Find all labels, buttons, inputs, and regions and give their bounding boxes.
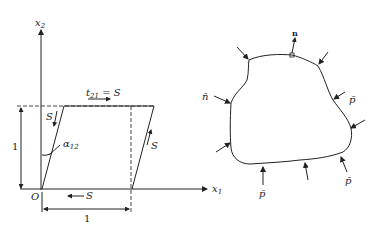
shear-diagram: x2 x1 O t21 = S S S S α12 1 <box>12 17 222 224</box>
normal-arrow <box>292 38 295 53</box>
top-traction-label: t21 = S <box>86 87 121 100</box>
load-arrow-6 <box>216 143 230 152</box>
width-label: 1 <box>84 213 90 224</box>
height-label: 1 <box>12 141 18 152</box>
load-label-right: p̄ <box>349 94 356 105</box>
angle-label: α12 <box>63 138 79 151</box>
body-diagram: n n̄ p̄ p̄ p̄ <box>202 28 365 199</box>
right-shear-label: S <box>151 140 158 151</box>
load-arrow-3 <box>214 96 230 103</box>
load-arrow-1 <box>237 47 248 59</box>
load-arrow-2 <box>319 52 328 64</box>
body-outline <box>230 55 351 164</box>
normal-left-label: n̄ <box>202 91 208 102</box>
diagram-canvas: x2 x1 O t21 = S S S S α12 1 <box>0 0 378 235</box>
left-shear-label: S <box>46 111 53 122</box>
x2-axis-label: x2 <box>35 17 46 30</box>
angle-leader <box>49 145 60 155</box>
bottom-shear-label: S <box>86 190 93 201</box>
normal-label: n <box>292 28 298 38</box>
left-shear-arrow <box>54 111 57 126</box>
load-arrow-4 <box>334 92 345 99</box>
load-label-bottom: p̄ <box>259 188 266 199</box>
load-label-bottom-right: p̄ <box>345 175 352 186</box>
x1-axis-label: x1 <box>212 183 222 196</box>
load-arrow-9 <box>341 157 347 172</box>
origin-label: O <box>31 191 39 202</box>
load-arrow-5 <box>351 120 365 128</box>
load-arrow-8 <box>305 163 308 180</box>
